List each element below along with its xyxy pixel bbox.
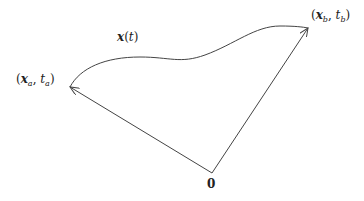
origin-label: 0	[207, 177, 215, 191]
diagram-canvas	[0, 0, 364, 201]
path-label-arg: t	[129, 30, 134, 44]
end-sub: b	[323, 15, 328, 24]
start-tsub: a	[45, 79, 50, 88]
vector-to-start-arrow	[70, 87, 212, 173]
start-var: x	[21, 72, 28, 86]
end-tsub: b	[340, 15, 345, 24]
path-label-var: x	[117, 30, 124, 44]
trajectory-curve	[70, 26, 308, 87]
end-point-label: (xb, tb)	[311, 8, 350, 24]
end-var: x	[316, 8, 323, 22]
start-sub: a	[28, 79, 33, 88]
vector-to-end-arrow	[212, 28, 308, 173]
path-label: x(t)	[117, 30, 138, 44]
start-point-label: (xa, ta)	[16, 72, 55, 88]
